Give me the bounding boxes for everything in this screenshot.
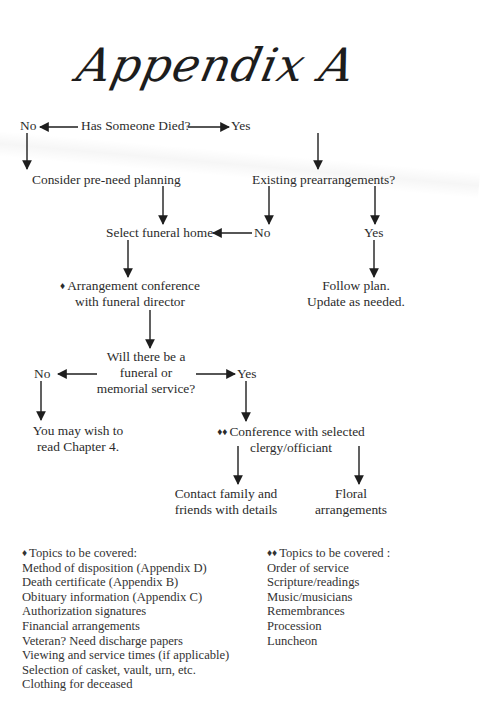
- node-service-no: No: [34, 366, 50, 382]
- funeral-director-topics-list: ♦Topics to be covered: Method of disposi…: [22, 546, 229, 692]
- list-item: Authorization signatures: [22, 604, 229, 619]
- node-floral-arrangements: Floral arrangements: [315, 486, 387, 518]
- list-item: Viewing and service times (if applicable…: [22, 648, 229, 663]
- node-read-chapter: You may wish to read Chapter 4.: [33, 423, 124, 455]
- node-existing-prearrangements: Existing prearrangements?: [252, 172, 395, 188]
- node-consider-preneed: Consider pre-need planning: [32, 172, 181, 188]
- list-item: Selection of casket, vault, urn, etc.: [22, 663, 229, 678]
- list-item: Music/musicians: [267, 590, 390, 605]
- clergy-topics-list: ♦♦Topics to be covered : Order of servic…: [267, 546, 390, 648]
- node-arrangement-conference: ♦Arrangement conference with funeral dir…: [60, 278, 200, 310]
- node-select-funeral-home: Select funeral home: [106, 225, 213, 241]
- node-service-question: Will there be a funeral or memorial serv…: [97, 349, 196, 397]
- node-prearrangements-no: No: [254, 225, 270, 241]
- diamond-marker-icon: ♦: [60, 280, 65, 291]
- node-start-no: No: [20, 118, 36, 134]
- node-prearrangements-yes: Yes: [364, 225, 383, 241]
- list-item: Method of disposition (Appendix D): [22, 561, 229, 576]
- list-item: Remembrances: [267, 604, 390, 619]
- node-service-yes: Yes: [237, 366, 256, 382]
- node-start-yes: Yes: [231, 118, 250, 134]
- list-item: Veteran? Need discharge papers: [22, 634, 229, 649]
- list-item: Clothing for deceased: [22, 677, 229, 692]
- list-item: Scripture/readings: [267, 575, 390, 590]
- node-clergy-conference: ♦♦Conference with selected clergy/offici…: [217, 424, 365, 456]
- list-heading: ♦Topics to be covered:: [22, 546, 229, 561]
- double-diamond-marker-icon: ♦♦: [217, 426, 227, 437]
- node-follow-plan: Follow plan. Update as needed.: [307, 278, 405, 310]
- double-diamond-marker-icon: ♦♦: [267, 547, 277, 558]
- list-item: Order of service: [267, 561, 390, 576]
- list-item: Obituary information (Appendix C): [22, 590, 229, 605]
- list-item: Luncheon: [267, 634, 390, 649]
- diamond-marker-icon: ♦: [22, 547, 27, 558]
- node-contact-family: Contact family and friends with details: [175, 486, 278, 518]
- list-heading: ♦♦Topics to be covered :: [267, 546, 390, 561]
- node-has-someone-died: Has Someone Died?: [81, 118, 190, 134]
- list-item: Financial arrangements: [22, 619, 229, 634]
- list-item: Procession: [267, 619, 390, 634]
- list-item: Death certificate (Appendix B): [22, 575, 229, 590]
